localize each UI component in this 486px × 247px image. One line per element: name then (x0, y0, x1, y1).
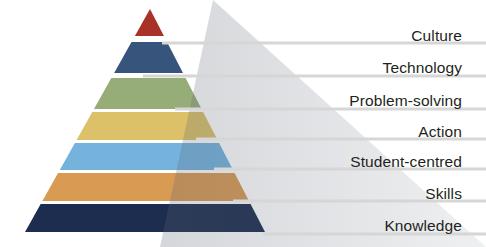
tier-label-problem-solving: Problem-solving (349, 93, 462, 109)
tier-label-student-centred: Student-centred (350, 154, 462, 170)
tier-label-skills: Skills (425, 186, 462, 202)
tier-label-culture: Culture (411, 28, 462, 44)
tier-label-technology: Technology (383, 60, 462, 76)
tier-label-action: Action (418, 124, 462, 140)
tier-label-knowledge: Knowledge (384, 218, 462, 234)
pyramid-diagram: Culture Technology Problem-solving Actio… (0, 0, 486, 247)
